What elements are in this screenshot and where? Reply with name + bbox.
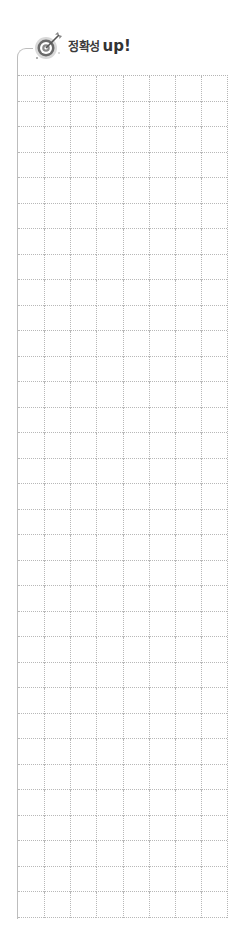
- grid-cell: [123, 255, 149, 281]
- grid-cell: [96, 688, 122, 714]
- grid-cell: [44, 382, 70, 408]
- grid-cell: [123, 306, 149, 332]
- grid-cell: [96, 76, 122, 102]
- grid-cell: [70, 229, 96, 255]
- grid-cell: [18, 739, 44, 765]
- grid-cell: [70, 433, 96, 459]
- grid-cell: [201, 816, 227, 842]
- grid-cell: [149, 153, 175, 179]
- title-korean: 정확성: [68, 40, 100, 54]
- grid-cell: [123, 663, 149, 689]
- grid-cell: [123, 561, 149, 587]
- grid-cell: [96, 102, 122, 128]
- grid-cell: [201, 408, 227, 434]
- grid-cell: [96, 178, 122, 204]
- grid-cell: [70, 204, 96, 230]
- grid-cell: [175, 510, 201, 536]
- grid-cell: [70, 76, 96, 102]
- grid-cell: [149, 306, 175, 332]
- grid-cell: [175, 331, 201, 357]
- grid-cell: [96, 637, 122, 663]
- grid-cell: [70, 612, 96, 638]
- grid-cell: [96, 153, 122, 179]
- grid-cell: [123, 688, 149, 714]
- grid-cell: [96, 535, 122, 561]
- grid-cell: [201, 255, 227, 281]
- grid-cell: [149, 663, 175, 689]
- grid-cell: [18, 714, 44, 740]
- grid-cell: [149, 408, 175, 434]
- grid-cell: [18, 204, 44, 230]
- grid-cell: [96, 484, 122, 510]
- grid-cell: [96, 255, 122, 281]
- grid-cell: [44, 255, 70, 281]
- grid-cell: [201, 306, 227, 332]
- grid-cell: [201, 127, 227, 153]
- grid-cell: [18, 408, 44, 434]
- grid-cell: [96, 586, 122, 612]
- grid-cell: [149, 816, 175, 842]
- grid-cell: [123, 76, 149, 102]
- grid-cell: [175, 714, 201, 740]
- grid-cell: [70, 535, 96, 561]
- section-title: 정확성up!: [68, 36, 131, 56]
- grid-cell: [18, 867, 44, 893]
- grid-cell: [44, 127, 70, 153]
- grid-cell: [175, 357, 201, 383]
- grid-cell: [149, 535, 175, 561]
- grid-cell: [175, 739, 201, 765]
- grid-cell: [18, 306, 44, 332]
- grid-cell: [175, 612, 201, 638]
- grid-cell: [201, 714, 227, 740]
- grid-cell: [149, 688, 175, 714]
- grid-cell: [18, 76, 44, 102]
- grid-cell: [123, 357, 149, 383]
- grid-cell: [201, 867, 227, 893]
- grid-cell: [44, 739, 70, 765]
- grid-cell: [18, 459, 44, 485]
- grid-cell: [18, 535, 44, 561]
- grid-cell: [123, 586, 149, 612]
- grid-cell: [18, 255, 44, 281]
- grid-cell: [70, 867, 96, 893]
- grid-cell: [96, 765, 122, 791]
- grid-cell: [201, 510, 227, 536]
- grid-cell: [123, 867, 149, 893]
- grid-cell: [201, 561, 227, 587]
- grid-cell: [149, 204, 175, 230]
- grid-cell: [175, 127, 201, 153]
- grid-cell: [149, 280, 175, 306]
- grid-cell: [70, 816, 96, 842]
- grid-cell: [201, 280, 227, 306]
- grid-cell: [96, 459, 122, 485]
- grid-cell: [123, 153, 149, 179]
- grid-cell: [96, 306, 122, 332]
- grid-cell: [70, 637, 96, 663]
- grid-cell: [44, 331, 70, 357]
- grid-cell: [201, 739, 227, 765]
- grid-cell: [175, 892, 201, 918]
- grid-cell: [149, 637, 175, 663]
- grid-cell: [18, 357, 44, 383]
- grid-cell: [149, 382, 175, 408]
- grid-cell: [44, 892, 70, 918]
- grid-cell: [201, 433, 227, 459]
- grid-cell: [123, 178, 149, 204]
- grid-cell: [149, 459, 175, 485]
- grid-cell: [70, 382, 96, 408]
- grid-cell: [149, 841, 175, 867]
- target-arrow-icon: [33, 31, 63, 61]
- grid-cell: [123, 459, 149, 485]
- grid-cell: [149, 76, 175, 102]
- grid-cell: [149, 178, 175, 204]
- grid-cell: [70, 280, 96, 306]
- grid-cell: [123, 739, 149, 765]
- grid-cell: [175, 790, 201, 816]
- grid-cell: [70, 178, 96, 204]
- grid-cell: [70, 357, 96, 383]
- grid-cell: [123, 127, 149, 153]
- grid-cell: [70, 484, 96, 510]
- grid-cell: [18, 841, 44, 867]
- grid-cell: [175, 255, 201, 281]
- grid-cell: [149, 229, 175, 255]
